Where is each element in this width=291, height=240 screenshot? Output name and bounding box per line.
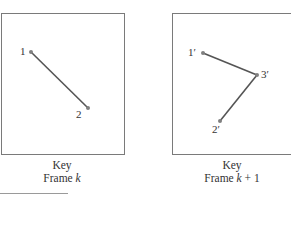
edge-1-2 — [31, 52, 88, 108]
caption-frame-k: Key Frame k — [12, 159, 112, 185]
point-3-prime — [255, 73, 259, 77]
footnote-rule — [0, 193, 68, 194]
label-point-2-prime: 2′ — [212, 124, 220, 135]
point-2 — [86, 106, 90, 110]
label-point-2: 2 — [76, 109, 82, 120]
caption-frame-word: Frame — [204, 172, 236, 184]
caption-key: Key — [182, 159, 282, 172]
point-1 — [29, 50, 33, 54]
point-1-prime — [201, 51, 205, 55]
edge-3p-2p — [220, 75, 257, 121]
caption-frame-label: Frame k — [12, 172, 112, 185]
caption-frame-label: Frame k + 1 — [182, 172, 282, 185]
label-point-1-prime: 1′ — [188, 47, 196, 58]
caption-key: Key — [12, 159, 112, 172]
caption-frame-k-plus-1: Key Frame k + 1 — [182, 159, 282, 185]
label-point-3-prime: 3′ — [261, 69, 269, 80]
caption-frame-word: Frame — [43, 172, 75, 184]
edge-1p-3p — [203, 53, 257, 75]
label-point-1: 1 — [20, 46, 26, 57]
caption-frame-var: k — [76, 172, 81, 184]
caption-frame-suffix: + 1 — [242, 172, 260, 184]
